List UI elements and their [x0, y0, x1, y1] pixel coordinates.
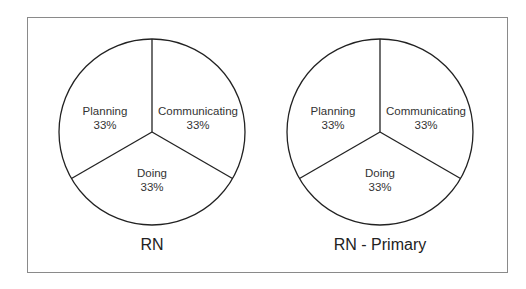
- slice-label-doing: Doing: [365, 167, 395, 179]
- slice-value-planning: 33%: [321, 119, 344, 131]
- slice-value-communicating: 33%: [186, 119, 209, 131]
- pie-charts: Planning 33% Communicating 33% Doing 33%…: [0, 0, 526, 289]
- slice-value-planning: 33%: [93, 119, 116, 131]
- slice-label-planning: Planning: [311, 105, 356, 117]
- pie-caption: RN - Primary: [334, 236, 426, 253]
- pie-rn: Planning 33% Communicating 33% Doing 33%…: [59, 39, 245, 253]
- slice-label-doing: Doing: [137, 167, 167, 179]
- slice-label-planning: Planning: [83, 105, 128, 117]
- slice-value-doing: 33%: [368, 181, 391, 193]
- slice-label-communicating: Communicating: [386, 105, 466, 117]
- pie-rn-primary: Planning 33% Communicating 33% Doing 33%…: [287, 39, 473, 253]
- slice-value-communicating: 33%: [414, 119, 437, 131]
- slice-label-communicating: Communicating: [158, 105, 238, 117]
- pie-caption: RN: [140, 236, 163, 253]
- slice-value-doing: 33%: [140, 181, 163, 193]
